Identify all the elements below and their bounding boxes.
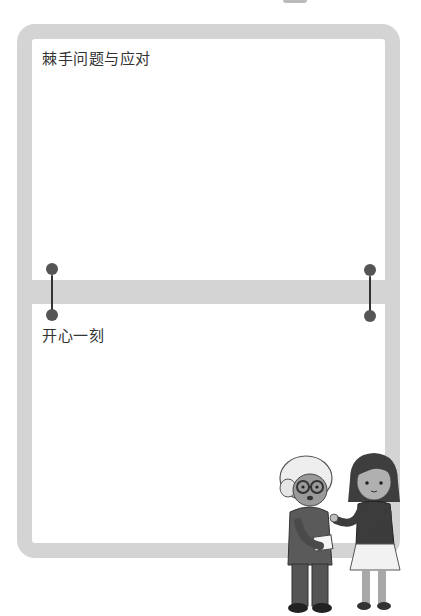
- binder-ring-right-bottom-icon: [364, 310, 376, 322]
- section-title-happy-moment: 开心一刻: [42, 324, 104, 345]
- binder-ring-left-bottom-icon: [46, 309, 58, 321]
- binder-ring-right-top-icon: [364, 264, 376, 276]
- section-title-tricky-problems: 棘手问题与应对: [42, 47, 151, 68]
- elderly-woman-figure: [280, 456, 333, 613]
- section-divider: [17, 280, 400, 304]
- top-decoration: [283, 0, 307, 3]
- binder-ring-left-top-icon: [46, 263, 58, 275]
- grandma-and-girl-illustration: [262, 440, 421, 616]
- girl-figure: [330, 453, 400, 610]
